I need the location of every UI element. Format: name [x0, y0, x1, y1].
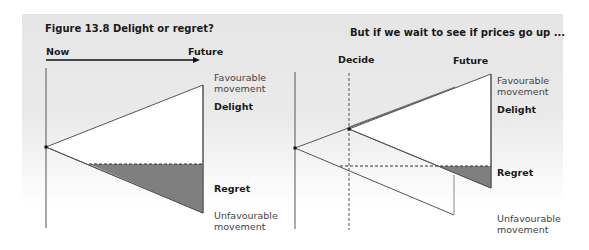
decide-point — [348, 128, 351, 131]
left-diagram — [45, 57, 204, 228]
decide-label: Decide — [338, 54, 374, 65]
left-delight-label: Delight — [214, 101, 253, 112]
left-figure-title: Figure 13.8 Delight or regret? — [45, 23, 214, 34]
left-favourable-label: Favourable movement — [214, 72, 266, 94]
left-regret-label: Regret — [214, 183, 250, 194]
left-origin-point — [45, 146, 48, 149]
right-unfavourable-line1: Unfavourable — [497, 213, 561, 224]
left-unfavourable-label: Unfavourable movement — [214, 210, 278, 232]
left-favourable-line1: Favourable — [214, 72, 266, 83]
arrow-head-icon — [193, 57, 200, 63]
future-label-left: Future — [188, 46, 223, 57]
now-label: Now — [46, 46, 69, 57]
right-unfavourable-line2: movement — [497, 224, 561, 235]
right-delight-label: Delight — [497, 104, 536, 115]
right-favourable-line2: movement — [497, 86, 549, 97]
left-unfavourable-line1: Unfavourable — [214, 210, 278, 221]
right-regret-label: Regret — [497, 167, 533, 178]
left-unfavourable-line2: movement — [214, 221, 278, 232]
right-figure-title: But if we wait to see if prices go up ..… — [350, 27, 565, 38]
future-label-right: Future — [453, 55, 488, 66]
left-favourable-line2: movement — [214, 83, 266, 94]
right-favourable-label: Favourable movement — [497, 75, 549, 97]
right-favourable-line1: Favourable — [497, 75, 549, 86]
right-unfavourable-label: Unfavourable movement — [497, 213, 561, 235]
right-origin-point — [294, 147, 297, 150]
right-diagram — [294, 73, 492, 230]
